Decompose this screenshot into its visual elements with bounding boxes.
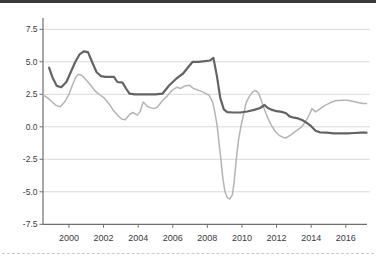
x-tick-label: 2014 (301, 233, 321, 243)
line-chart: 7.55.02.50.0-2.5-5.0-7.52000200220042006… (0, 0, 376, 258)
y-tick-label: -5.0 (23, 187, 38, 197)
x-tick-label: 2008 (197, 233, 217, 243)
y-tick-label: 5.0 (26, 57, 38, 67)
x-tick-label: 2002 (94, 233, 114, 243)
line-chart-svg: 7.55.02.50.0-2.5-5.0-7.52000200220042006… (0, 0, 376, 258)
y-tick-label: 0.0 (26, 122, 38, 132)
y-tick-label: 7.5 (26, 24, 38, 34)
x-tick-label: 2000 (59, 233, 79, 243)
series-line-light (43, 74, 367, 199)
bottom-dashed-separator (2, 253, 374, 254)
x-tick-label: 2004 (128, 233, 148, 243)
x-tick-label: 2010 (232, 233, 252, 243)
y-tick-label: -2.5 (23, 154, 38, 164)
x-tick-label: 2016 (336, 233, 356, 243)
y-tick-label: 2.5 (26, 89, 38, 99)
x-tick-label: 2006 (163, 233, 183, 243)
y-tick-label: -7.5 (23, 219, 38, 229)
x-tick-label: 2012 (267, 233, 287, 243)
